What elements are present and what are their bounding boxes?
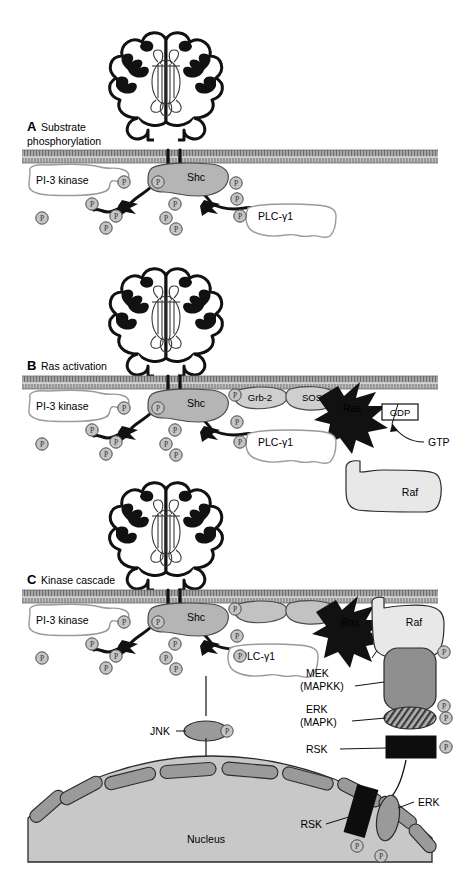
panel-a-plc-label: PLC-γ1 (258, 210, 293, 222)
panel-b-pi3-kinase: PI-3 kinase (29, 390, 129, 421)
nuclear-erk-label: ERK (418, 796, 440, 808)
panel-c-receptor (110, 483, 223, 590)
panel-b-letter: B (27, 358, 36, 373)
panel-b-grb2-label: Grb-2 (248, 392, 272, 403)
panel-b-raf: Raf (346, 461, 441, 512)
panel-b-raf-label: Raf (402, 486, 418, 498)
panel-c-jnk: JNK (150, 676, 228, 741)
panel-b-shc-label: Shc (187, 397, 205, 409)
panel-c-erk-alt-label: (MAPK) (300, 716, 337, 728)
panel-b-membrane (22, 376, 438, 389)
panel-a-plc: PLC-γ1 (246, 204, 336, 237)
panel-c: C Kinase cascade PI-3 kinase Shc Ras (22, 483, 452, 862)
panel-b-gtp-label: GTP (428, 436, 450, 448)
nucleus-label: Nucleus (187, 833, 225, 845)
panel-c-mek-label: MEK (306, 667, 329, 679)
panel-c-shc-label: Shc (187, 611, 205, 623)
panel-c-rsk: RSK (306, 736, 436, 758)
panel-c-pi3-kinase: PI-3 kinase (29, 604, 129, 635)
panel-a-letter: A (27, 119, 37, 134)
panel-a: A Substrate phosphorylation PI-3 kinase … (22, 33, 438, 238)
panel-a-title-line1: Substrate (41, 121, 86, 133)
panel-b-pi3k-label: PI-3 kinase (36, 400, 89, 412)
panel-b-title: Ras activation (41, 360, 107, 372)
panel-b-ras-label: Ras (343, 402, 362, 414)
panel-a-pi3-kinase: PI-3 kinase (29, 164, 129, 195)
panel-c-letter: C (27, 572, 37, 587)
panel-c-erk-label: ERK (306, 703, 328, 715)
nucleus: Nucleus RSK ERK (27, 756, 439, 862)
panel-a-title-line2: phosphorylation (27, 135, 101, 147)
panel-c-title: Kinase cascade (41, 574, 115, 586)
panel-c-rsk-label: RSK (306, 743, 328, 755)
panel-c-raf-label: Raf (406, 616, 422, 628)
panel-c-grb2 (234, 601, 287, 623)
panel-a-membrane (22, 150, 438, 163)
panel-c-erk: ERK (MAPK) (300, 703, 436, 729)
panel-c-pi3k-label: PI-3 kinase (36, 614, 89, 626)
panel-a-pi3k-label: PI-3 kinase (36, 174, 89, 186)
panel-b-plc: PLC-γ1 (246, 430, 336, 463)
panel-c-mek-alt-label: (MAPKK) (300, 680, 344, 692)
panel-a-receptor (110, 33, 223, 140)
panel-a-shc-label: Shc (187, 171, 205, 183)
panel-b-gdp-label: GDP (390, 407, 411, 418)
nuclear-rsk-label: RSK (300, 818, 322, 830)
panel-c-ras-label: Ras (341, 616, 360, 628)
panel-b: B Ras activation PI-3 kinase Shc Grb-2 S… (22, 269, 450, 512)
panel-c-jnk-label: JNK (150, 725, 170, 737)
panel-b-receptor (110, 269, 223, 376)
panel-b-gdp: GDP (382, 404, 418, 420)
panel-b-plc-label: PLC-γ1 (258, 436, 293, 448)
panel-b-grb2: Grb-2 (234, 387, 287, 409)
signalling-pathway-figure: P A Substrate phosphorylation PI-3 kinas… (0, 0, 460, 892)
